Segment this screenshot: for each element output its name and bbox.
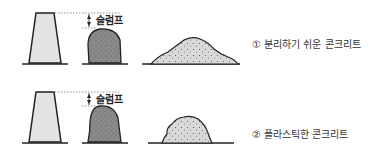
row-1-figures: [22, 13, 240, 64]
slumped-concrete: [88, 106, 121, 142]
slump-label: 슬럼프: [96, 12, 123, 27]
slump-label: 슬럼프: [96, 91, 123, 106]
slumped-concrete: [88, 29, 121, 63]
row-2-figures: [22, 92, 234, 143]
slump-cone: [29, 13, 61, 63]
plastic-pile: [162, 116, 212, 143]
slump-cone: [29, 92, 61, 142]
caption-plastic-concrete: ② 플라스틱한 콘크리트: [252, 126, 348, 141]
segregated-pile: [151, 38, 238, 64]
caption-segregating-concrete: ① 분리하기 쉬운 콘크리트: [252, 36, 361, 51]
